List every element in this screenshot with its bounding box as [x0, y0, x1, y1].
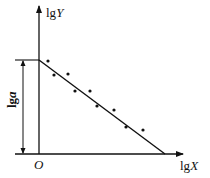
- y-axis-label: lgY: [46, 5, 65, 20]
- regression-line: [39, 60, 165, 154]
- data-point: [88, 89, 91, 92]
- data-point: [112, 108, 115, 111]
- data-points: [46, 59, 144, 131]
- data-point: [52, 73, 55, 76]
- data-point: [141, 128, 144, 131]
- origin-label: O: [34, 157, 44, 172]
- data-point: [95, 104, 98, 107]
- x-axis-label: lgX: [180, 158, 199, 173]
- loglog-diagram: lgY lgX O lga: [0, 0, 210, 178]
- data-point: [46, 59, 49, 62]
- data-point: [124, 125, 127, 128]
- intercept-label: lga: [4, 91, 19, 108]
- data-point: [73, 89, 76, 92]
- data-point: [66, 72, 69, 75]
